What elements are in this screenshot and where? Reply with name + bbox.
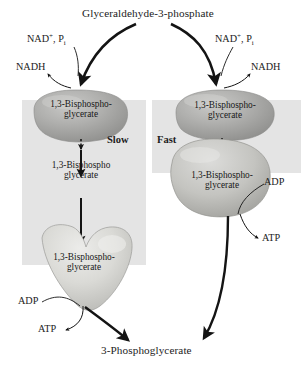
intermediate-label-left-3: 1,3-Bisphospho- glycerate (36, 252, 132, 273)
nadh-right: NADH (251, 62, 280, 73)
intermediate-line1: 1,3-Bisphospho- (53, 252, 115, 262)
intermediate-label-right-1: 1,3-Bisphospho- glycerate (177, 100, 273, 121)
arrow-title-to-right-enzyme (171, 24, 216, 84)
arrow-nadh-out-left (48, 74, 71, 88)
arrow-left-to-product (85, 307, 128, 340)
atp-right: ATP (262, 233, 280, 244)
nadh-left: NADH (16, 62, 45, 73)
pathway-diagram: Glyceraldehyde-3-phosphate NAD+, Pi NADH… (0, 0, 307, 367)
line-nad-in-right (221, 47, 233, 76)
adp-right: ADP (264, 177, 284, 188)
arrow-right-to-product (204, 216, 228, 338)
intermediate-line1: 1,3-Bisphospho- (191, 170, 253, 180)
product-label: 3-Phosphoglycerate (101, 345, 192, 357)
intermediate-label-left-1: 1,3-Bisphospho- glycerate (33, 99, 129, 120)
nad-plus-pi-right: NAD+, Pi (215, 33, 254, 48)
intermediate-line1: 1,3-Bisphospho (52, 160, 111, 170)
intermediate-label-left-2: 1,3-Bisphospho glycerate (32, 160, 130, 181)
intermediate-line2: glycerate (64, 109, 98, 119)
intermediate-line2: glycerate (67, 262, 101, 272)
intermediate-line2: glycerate (64, 170, 98, 180)
substrate-title: Glyceraldehyde-3-phosphate (82, 8, 214, 20)
arrow-title-to-left-enzyme (81, 24, 136, 84)
atp-left: ATP (38, 324, 56, 335)
arrow-atp-out-right (240, 214, 258, 238)
rate-label-slow: Slow (107, 134, 129, 145)
line-nad-in-left (74, 47, 78, 76)
intermediate-line2: glycerate (208, 110, 242, 120)
arrow-nadh-out-right (224, 74, 250, 88)
nad-plus-pi-left: NAD+, Pi (27, 33, 66, 48)
intermediate-line1: 1,3-Bisphospho- (50, 99, 112, 109)
arrow-atp-out-left (66, 306, 83, 330)
adp-left: ADP (18, 296, 38, 307)
intermediate-line2: glycerate (205, 180, 239, 190)
intermediate-label-right-2: 1,3-Bisphospho- glycerate (174, 170, 270, 191)
rate-label-fast: Fast (157, 134, 176, 145)
intermediate-line1: 1,3-Bisphospho- (194, 100, 256, 110)
